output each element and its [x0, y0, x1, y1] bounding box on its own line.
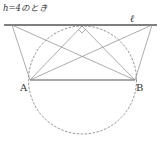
label-point-a: A [19, 82, 28, 93]
segment-right-b [135, 25, 152, 80]
geometry-diagram: ℓ A B [0, 0, 166, 142]
label-line-l: ℓ [130, 13, 134, 24]
right-angle-mark [79, 30, 86, 34]
label-point-b: B [136, 82, 143, 93]
segment-left-a [12, 25, 30, 80]
segment-right-a [30, 25, 152, 80]
segment-left-b [12, 25, 135, 80]
